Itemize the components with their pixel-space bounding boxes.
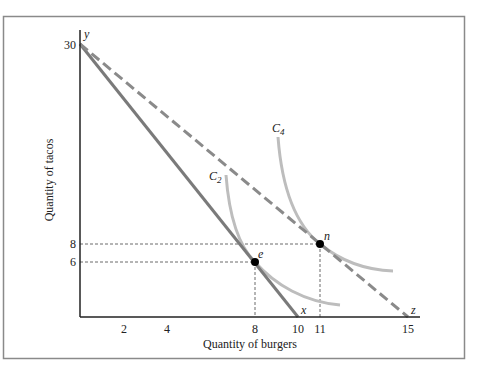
x-tick-15: 15 bbox=[402, 322, 414, 336]
y-axis-title: Quantity of tacos bbox=[42, 138, 56, 221]
indifference-curve-c4 bbox=[278, 137, 393, 271]
y-axis-end-label: y bbox=[83, 27, 90, 41]
x-tick-2: 2 bbox=[121, 322, 127, 336]
point-e-label: e bbox=[258, 247, 264, 261]
z-end-label: z bbox=[410, 303, 416, 317]
point-n bbox=[316, 240, 324, 248]
x-axis-title: Quantity of burgers bbox=[203, 337, 297, 351]
indifference-curve-c2 bbox=[226, 175, 340, 305]
guide-lines bbox=[80, 244, 320, 317]
x-tick-4: 4 bbox=[164, 322, 170, 336]
x-end-label: x bbox=[300, 303, 307, 317]
c2-label: C2 bbox=[209, 169, 222, 185]
budget-line-zy bbox=[80, 44, 408, 317]
y-tick-6: 6 bbox=[70, 255, 76, 269]
x-tick-11: 11 bbox=[314, 322, 326, 336]
chart: e n C2 C4 y x z 30 8 6 2 4 8 10 11 15 Qu… bbox=[0, 0, 485, 373]
y-tick-30: 30 bbox=[64, 38, 76, 52]
c4-label: C4 bbox=[272, 121, 285, 137]
x-tick-10: 10 bbox=[292, 322, 304, 336]
budget-line-xy bbox=[80, 44, 298, 317]
y-tick-8: 8 bbox=[70, 237, 76, 251]
x-tick-8: 8 bbox=[252, 322, 258, 336]
point-n-label: n bbox=[324, 229, 330, 243]
